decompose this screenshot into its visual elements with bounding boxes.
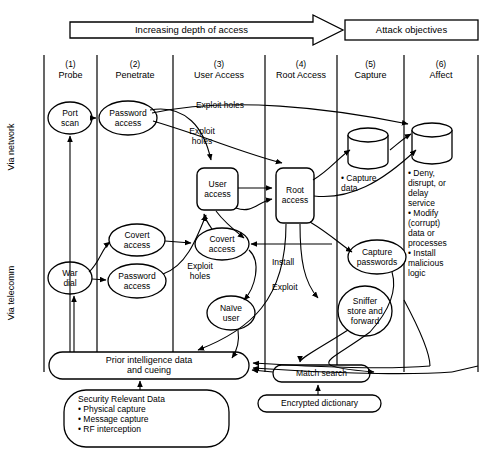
node-encrypted-dictionary	[258, 395, 381, 412]
depth-arrow-banner	[70, 15, 343, 45]
node-port-scan	[48, 102, 92, 134]
node-password-access-net	[99, 101, 157, 135]
diagram-canvas: Increasing depth of access Attack object…	[0, 0, 497, 466]
attack-objectives-box	[345, 20, 478, 40]
node-security-relevant-data	[64, 390, 229, 447]
node-covert-access-user	[195, 228, 249, 260]
column-dividers	[44, 55, 478, 372]
node-naive-user	[207, 296, 255, 330]
node-user-access	[197, 168, 238, 210]
node-root-access	[276, 168, 314, 223]
node-prior-intelligence	[49, 352, 249, 379]
diagram-vector-layer	[0, 0, 497, 466]
diagram-connector-lines	[404, 300, 478, 372]
node-password-access-tel	[108, 264, 166, 298]
node-capture-data-cylinder	[348, 128, 388, 169]
node-capture-passwords	[348, 240, 406, 274]
node-covert-access-pen	[109, 224, 165, 256]
node-sniffer-store-forward	[338, 286, 392, 336]
node-affect-outcomes-cylinder	[412, 123, 452, 164]
